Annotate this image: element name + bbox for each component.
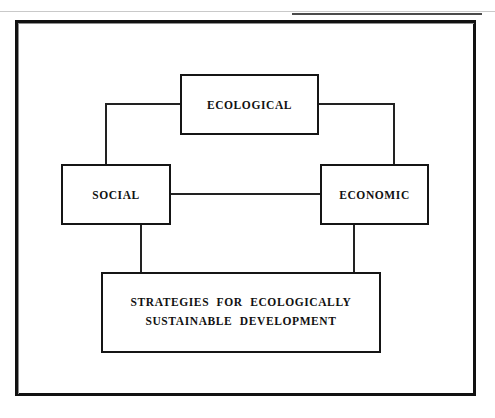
connector-ecological-social-horizontal [105, 103, 181, 105]
node-social-label: SOCIAL [92, 189, 140, 201]
scan-artifact-line [0, 11, 495, 12]
connector-social-strategies [140, 224, 142, 274]
diagram-canvas: ECOLOGICAL SOCIAL ECONOMIC STRATEGIES FO… [0, 0, 495, 418]
connector-ecological-economic-vertical [393, 103, 395, 166]
node-ecological: ECOLOGICAL [180, 74, 319, 135]
node-social: SOCIAL [61, 164, 171, 225]
node-strategies: STRATEGIES FOR ECOLOGICALLY SUSTAINABLE … [101, 272, 381, 353]
node-economic-label: ECONOMIC [339, 189, 410, 201]
connector-ecological-economic-horizontal [318, 103, 395, 105]
node-strategies-label: STRATEGIES FOR ECOLOGICALLY SUSTAINABLE … [130, 274, 351, 331]
node-ecological-label: ECOLOGICAL [207, 99, 292, 111]
connector-economic-strategies [353, 224, 355, 274]
node-economic: ECONOMIC [320, 164, 429, 225]
connector-ecological-social-vertical [105, 103, 107, 166]
scan-artifact-line-dark [292, 13, 482, 15]
connector-social-economic [169, 193, 322, 195]
